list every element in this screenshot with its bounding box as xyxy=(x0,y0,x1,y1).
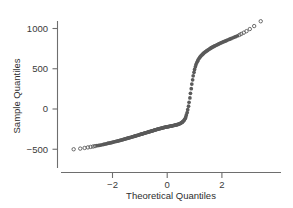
data-point xyxy=(189,91,193,95)
y-axis-group: −50005001000 Sample Quantiles xyxy=(11,21,58,168)
qq-plot-canvas: −50005001000 Sample Quantiles −202 Theor… xyxy=(0,0,293,208)
data-point-series xyxy=(72,20,262,151)
x-axis-tick-label: −2 xyxy=(107,179,118,190)
y-axis-tick-label: 500 xyxy=(32,63,48,74)
x-axis-ticks xyxy=(113,173,222,179)
data-point xyxy=(189,87,193,91)
y-axis-tick-label: −500 xyxy=(27,144,48,155)
data-point xyxy=(190,82,194,86)
data-point xyxy=(187,100,191,104)
x-axis-tick-label: 2 xyxy=(219,179,224,190)
data-point-open xyxy=(79,147,82,150)
x-axis-tick-label: 0 xyxy=(165,179,170,190)
data-point-open xyxy=(72,148,75,151)
y-axis-tick-label: 0 xyxy=(43,103,48,114)
data-point-open xyxy=(259,20,262,23)
data-point-open xyxy=(83,146,86,149)
x-axis-title: Theoretical Quantiles xyxy=(126,190,216,201)
y-axis-tick-label: 1000 xyxy=(27,23,48,34)
data-point xyxy=(191,74,195,78)
data-point xyxy=(191,78,195,82)
data-point-open xyxy=(248,27,251,30)
y-axis-ticks xyxy=(53,29,58,150)
data-point-open xyxy=(252,24,255,27)
data-point xyxy=(187,104,191,108)
data-point-open xyxy=(245,29,248,32)
y-axis-tick-labels: −50005001000 xyxy=(27,23,48,155)
x-axis-tick-labels: −202 xyxy=(107,179,224,190)
qq-plot-figure: −50005001000 Sample Quantiles −202 Theor… xyxy=(0,0,293,208)
y-axis-title: Sample Quantiles xyxy=(11,58,22,133)
x-axis-group: −202 Theoretical Quantiles xyxy=(61,173,281,202)
data-point xyxy=(186,108,190,112)
data-point xyxy=(188,96,192,100)
